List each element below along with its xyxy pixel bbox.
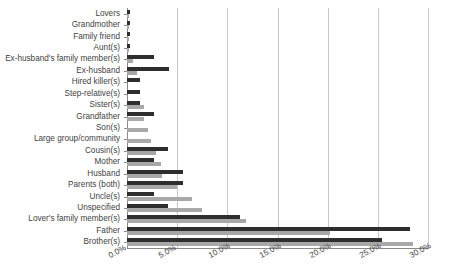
category-label: Father [0, 226, 120, 235]
category-label: Aunt(s) [0, 43, 120, 52]
bar [127, 37, 129, 41]
bar [127, 208, 202, 212]
bar [127, 185, 177, 189]
bar-group [127, 31, 428, 42]
category-label: Son(s) [0, 123, 120, 132]
bar [127, 151, 156, 155]
category-label: Parents (both) [0, 180, 120, 189]
gridline-30.0% [428, 8, 429, 248]
bar [127, 117, 144, 121]
category-label: Family friend [0, 32, 120, 41]
bar [127, 219, 246, 223]
category-label: Husband [0, 169, 120, 178]
bar-group [127, 42, 428, 53]
bar [127, 78, 140, 82]
bar-chart: LoversGrandmotherFamily friendAunt(s)Ex-… [0, 0, 452, 273]
bar-group [127, 191, 428, 202]
bar [127, 25, 129, 29]
category-label: Sister(s) [0, 100, 120, 109]
category-label: Grandfather [0, 112, 120, 121]
bar-group [127, 122, 428, 133]
category-tick [124, 94, 127, 95]
category-axis-labels: LoversGrandmotherFamily friendAunt(s)Ex-… [0, 8, 124, 248]
bar [127, 197, 192, 201]
bar-group [127, 65, 428, 76]
bar [127, 59, 133, 63]
category-label: Cousin(s) [0, 146, 120, 155]
bar-group [127, 54, 428, 65]
bar-group [127, 168, 428, 179]
category-label: Unspecified [0, 203, 120, 212]
bar [127, 162, 161, 166]
bar-group [127, 202, 428, 213]
bar-group [127, 111, 428, 122]
category-label: Grandmother [0, 20, 120, 29]
bar-group [127, 99, 428, 110]
bar [127, 48, 129, 52]
bar-group [127, 157, 428, 168]
bar-group [127, 77, 428, 88]
category-label: Uncle(s) [0, 192, 120, 201]
category-label: Hired killer(s) [0, 77, 120, 86]
bar [127, 71, 137, 75]
bar-group [127, 179, 428, 190]
bar [127, 128, 148, 132]
category-label: Large group/community [0, 134, 120, 143]
category-tick [124, 82, 127, 83]
bar-group [127, 145, 428, 156]
bar [127, 231, 330, 235]
bar-group [127, 8, 428, 19]
bar-group [127, 19, 428, 30]
plot-area [127, 8, 428, 248]
category-label: Lover's family member(s) [0, 214, 120, 223]
bar [127, 174, 162, 178]
bar [127, 105, 144, 109]
bar-rows [127, 8, 428, 248]
category-label: Brother(s) [0, 237, 120, 246]
category-label: Ex-husband's family member(s) [0, 54, 120, 63]
bar [127, 139, 151, 143]
bar [127, 14, 129, 18]
category-label: Ex-husband [0, 66, 120, 75]
bar-group [127, 134, 428, 145]
bar [127, 90, 140, 94]
category-label: Step-relative(s) [0, 89, 120, 98]
category-label: Mother [0, 157, 120, 166]
bar-group [127, 88, 428, 99]
value-axis-labels: 0.0%5.0%10.0%15.0%20.0%25.0%30.0% [0, 252, 452, 272]
category-label: Lovers [0, 9, 120, 18]
bar-group [127, 225, 428, 236]
bar-group [127, 214, 428, 225]
